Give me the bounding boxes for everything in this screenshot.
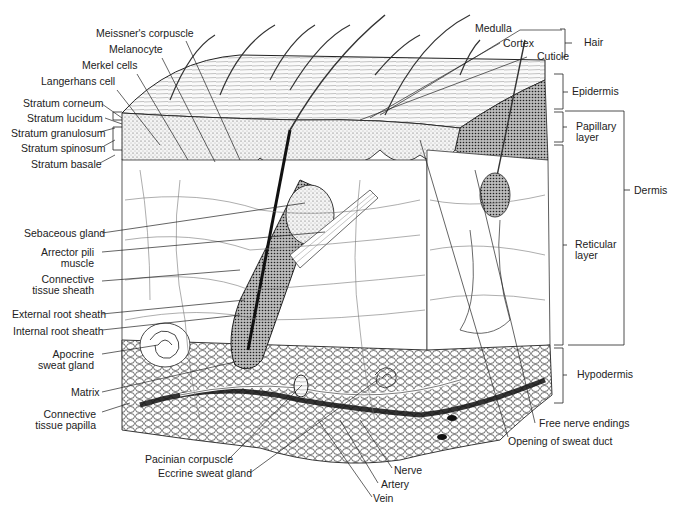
label-connective-sheath-line2: tissue sheath: [20, 285, 94, 296]
label-hypodermis: Hypodermis: [577, 369, 633, 380]
label-meissners-corpuscle: Meissner's corpuscle: [96, 28, 194, 39]
strata-brackets: [113, 112, 122, 150]
label-free-nerve-endings: Free nerve endings: [539, 418, 629, 429]
label-papillary-layer: Papillary layer: [576, 121, 616, 143]
label-stratum-basale: Stratum basale: [31, 159, 102, 170]
label-nerve: Nerve: [394, 465, 422, 476]
label-sebaceous-gland: Sebaceous gland: [24, 228, 105, 239]
label-internal-root-sheath: Internal root sheath: [13, 326, 103, 337]
label-connective-papilla-line2: tissue papilla: [20, 420, 96, 431]
apocrine-gland: [140, 323, 190, 367]
label-epidermis: Epidermis: [572, 86, 619, 97]
label-stratum-corneum: Stratum corneum: [23, 98, 104, 109]
label-cortex: Cortex: [503, 38, 534, 49]
label-stratum-lucidum: Stratum lucidum: [27, 113, 103, 124]
label-connective-tissue-papilla: Connective tissue papilla: [20, 409, 96, 431]
label-matrix: Matrix: [71, 387, 100, 398]
label-reticular-layer: Reticular layer: [575, 239, 616, 261]
label-hair: Hair: [584, 37, 603, 48]
label-reticular-line2: layer: [575, 250, 616, 261]
label-arrector-pili: Arrector pili muscle: [30, 247, 94, 269]
label-vein: Vein: [373, 493, 393, 504]
label-apocrine-sweat-gland: Apocrine sweat gland: [20, 349, 94, 371]
skin-diagram: Meissner's corpuscle Melanocyte Merkel c…: [0, 0, 675, 511]
label-opening-of-sweat-duct: Opening of sweat duct: [508, 436, 612, 447]
label-medulla: Medulla: [475, 23, 512, 34]
label-pacinian-corpuscle: Pacinian corpuscle: [145, 454, 233, 465]
label-external-root-sheath: External root sheath: [12, 309, 106, 320]
label-dermis: Dermis: [634, 185, 667, 196]
label-langerhans-cell: Langerhans cell: [41, 76, 115, 87]
label-melanocyte: Melanocyte: [109, 44, 163, 55]
label-eccrine-sweat-gland: Eccrine sweat gland: [158, 468, 252, 479]
label-cuticle: Cuticle: [537, 51, 569, 62]
label-stratum-granulosum: Stratum granulosum: [11, 128, 106, 139]
label-connective-tissue-sheath: Connective tissue sheath: [20, 274, 94, 296]
label-arrector-pili-line2: muscle: [30, 258, 94, 269]
label-apocrine-line2: sweat gland: [20, 360, 94, 371]
label-merkel-cells: Merkel cells: [82, 60, 137, 71]
label-stratum-spinosum: Stratum spinosum: [21, 143, 106, 154]
label-artery: Artery: [381, 479, 409, 490]
label-papillary-line2: layer: [576, 132, 616, 143]
